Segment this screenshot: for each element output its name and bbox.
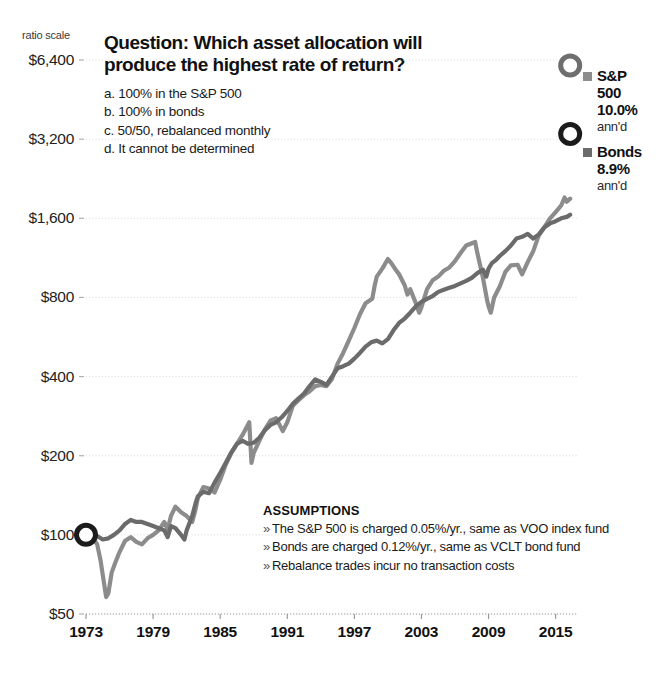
legend-swatch-icon [583,72,592,81]
x-axis-label: 1985 [190,623,250,641]
chart-legend: S&P 500 10.0% ann'd Bonds 8.9% ann'd [583,68,667,204]
legend-entry-bonds: Bonds 8.9% ann'd [583,144,667,193]
legend-swatch-icon [583,148,592,157]
legend-note: ann'd [597,178,667,194]
y-axis-label: $800 [41,288,74,306]
x-axis-label: 1979 [123,623,183,641]
assumption-text: Rebalance trades incur no transaction co… [272,558,514,573]
bullet-glyph-icon: » [263,558,270,573]
legend-label: Bonds [597,144,642,161]
y-axis-label: $1,600 [28,209,74,227]
endpoint-marker [561,56,580,75]
chart-figure: Question: Which asset allocation will pr… [0,0,668,676]
x-axis-label: 1973 [56,623,116,641]
x-axis-label: 1991 [257,623,317,641]
endpoint-marker [561,124,580,143]
series-line-bonds [86,215,570,540]
assumption-item: »Rebalance trades incur no transaction c… [263,557,593,575]
bullet-glyph-icon: » [263,521,270,536]
legend-entry-sp500: S&P 500 10.0% ann'd [583,68,667,134]
x-axis-label: 2009 [459,623,519,641]
assumption-item: »Bonds are charged 0.12%/yr., same as VC… [263,538,593,556]
x-axis-label: 2003 [391,623,451,641]
legend-value: 8.9% [597,161,667,178]
y-axis-label: $400 [41,368,74,386]
y-axis-label: $50 [49,605,74,623]
x-axis-label: 1997 [324,623,384,641]
bullet-glyph-icon: » [263,539,270,554]
legend-label-2: 500 [597,85,667,102]
y-axis-label: $3,200 [28,130,74,148]
assumption-text: Bonds are charged 0.12%/yr., same as VCL… [272,539,580,554]
assumption-item: »The S&P 500 is charged 0.05%/yr., same … [263,520,593,538]
assumptions-heading: ASSUMPTIONS [263,503,593,518]
y-axis-label: $6,400 [28,51,74,69]
assumption-text: The S&P 500 is charged 0.05%/yr., same a… [272,521,609,536]
legend-label: S&P [597,68,627,85]
legend-value: 10.0% [597,102,667,119]
endpoint-marker [77,525,96,544]
legend-note: ann'd [597,119,667,135]
y-axis-label: $100 [41,526,74,544]
assumptions-block: ASSUMPTIONS »The S&P 500 is charged 0.05… [263,503,593,575]
y-axis-label: $200 [41,447,74,465]
x-axis-label: 2015 [526,623,586,641]
